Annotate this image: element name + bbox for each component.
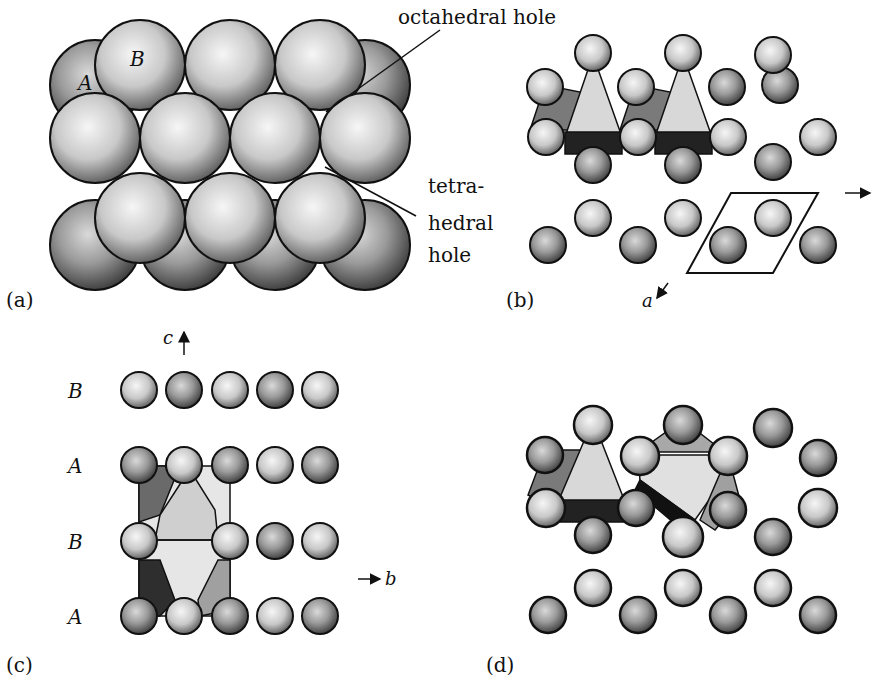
layer-b-spheres bbox=[50, 20, 410, 263]
tetrahedral-hole-label-line3: hole bbox=[428, 243, 471, 267]
tetrahedral-hole-label-line2: hedral bbox=[428, 211, 493, 235]
tetrahedral-hole-label-line1: tetra- bbox=[428, 174, 484, 198]
layer-label-c-2: A bbox=[66, 454, 82, 478]
a-axis-label: a bbox=[642, 290, 653, 311]
layer-label-a: A bbox=[76, 71, 92, 95]
c-axis-label: c bbox=[163, 327, 173, 348]
unit-cell-outline bbox=[687, 193, 818, 273]
layer-label-c-3: B bbox=[67, 530, 83, 554]
crystal-structure-figure: B A octahedral hole tetra- hedral hole (… bbox=[0, 0, 877, 685]
a-axis-arrow bbox=[657, 283, 668, 298]
layer-label-b: B bbox=[129, 47, 145, 71]
panel-label-b: (b) bbox=[506, 288, 534, 312]
panel-b: a (b) bbox=[506, 35, 870, 312]
panel-c: c B A B A b (c) bbox=[6, 327, 397, 677]
panel-label-a: (a) bbox=[6, 288, 34, 312]
b-axis-label-c: b bbox=[385, 568, 397, 589]
octahedral-hole-label: octahedral hole bbox=[398, 5, 556, 29]
panel-label-c: (c) bbox=[6, 653, 33, 677]
panel-a: B A octahedral hole tetra- hedral hole (… bbox=[6, 5, 556, 312]
panel-label-d: (d) bbox=[486, 653, 514, 677]
panel-d: (d) bbox=[486, 406, 837, 677]
layer-label-c-1: B bbox=[67, 379, 83, 403]
layer-label-c-4: A bbox=[66, 605, 82, 629]
